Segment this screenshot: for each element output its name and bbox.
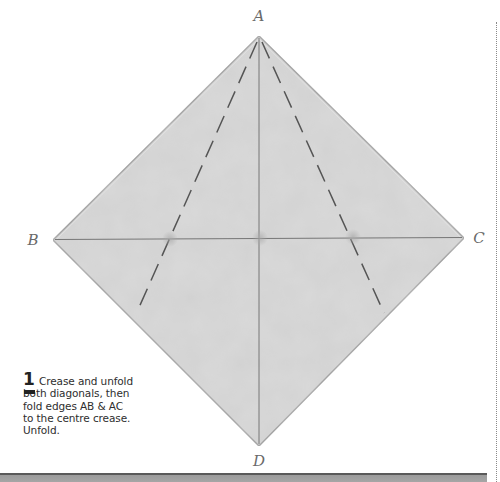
corner-label-a: A: [254, 9, 265, 24]
step-number: 1: [23, 371, 35, 388]
corner-label-c: C: [473, 231, 484, 246]
crease-mark-left: [162, 231, 178, 247]
corner-label-d: D: [253, 454, 265, 469]
step-text: Crease and unfold both diagonals, then f…: [23, 375, 135, 436]
step-number-underline: [24, 390, 35, 394]
page-bottom-bar: [0, 473, 487, 482]
crease-mark-right: [345, 229, 361, 245]
step-instruction: 1 Crease and unfold both diagonals, then…: [23, 375, 135, 436]
corner-label-b: B: [27, 233, 38, 248]
crease-mark-center: [252, 230, 268, 246]
page-dotted-divider: [496, 22, 497, 482]
